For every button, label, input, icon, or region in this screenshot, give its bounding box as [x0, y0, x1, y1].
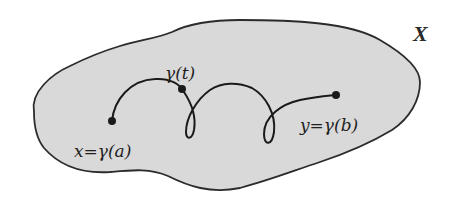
middle-point [178, 85, 186, 93]
label-space-x: X [412, 21, 429, 46]
label-middle-point: γ(t) [165, 63, 195, 83]
label-start-point: x=γ(a) [74, 141, 131, 161]
label-end-point: y=γ(b) [299, 115, 358, 135]
path-diagram: γ(t) x=γ(a) y=γ(b) X [0, 0, 456, 203]
start-point [108, 117, 116, 125]
space-region-x [34, 20, 420, 190]
end-point [332, 91, 340, 99]
